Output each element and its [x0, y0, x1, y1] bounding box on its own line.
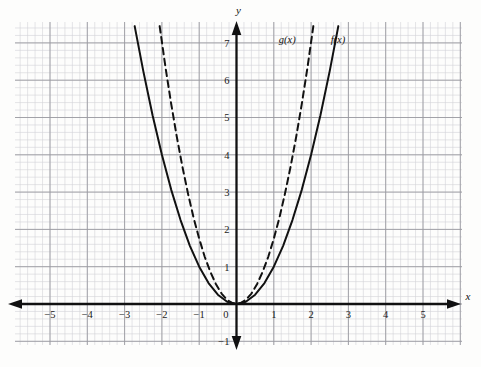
cartesian-plot: −5−4−3−2−1012345 −11234567 g(x)f(x) xy [0, 0, 481, 367]
x-tick-5: 5 [420, 309, 425, 320]
graph-canvas: −5−4−3−2−1012345 −11234567 g(x)f(x) xy [0, 0, 481, 367]
x-tick-1: 1 [271, 309, 276, 320]
y-tick--1: −1 [218, 336, 229, 347]
y-tick-6: 6 [224, 75, 229, 86]
g-curve-label: g(x) [279, 34, 296, 46]
x-tick--2: −2 [156, 309, 167, 320]
x-tick--1: −1 [194, 309, 205, 320]
minor-gridlines [15, 22, 462, 345]
x-tick--3: −3 [119, 309, 130, 320]
y-tick-1: 1 [224, 262, 229, 273]
y-tick-7: 7 [224, 38, 229, 49]
x-tick-0: 0 [223, 309, 228, 320]
x-axis-label: x [465, 290, 471, 302]
y-axis-label: y [235, 4, 241, 16]
y-tick-5: 5 [224, 112, 229, 123]
f-curve-label: f(x) [331, 34, 346, 46]
x-tick-2: 2 [308, 309, 313, 320]
y-tick-3: 3 [224, 187, 229, 198]
x-tick--5: −5 [44, 309, 55, 320]
x-tick-4: 4 [383, 309, 389, 320]
x-tick-3: 3 [346, 309, 351, 320]
x-tick--4: −4 [82, 309, 94, 320]
y-tick-4: 4 [224, 150, 230, 161]
axis-names: xy [235, 4, 471, 302]
x-tick-labels: −5−4−3−2−1012345 [44, 309, 425, 320]
y-tick-2: 2 [224, 224, 229, 235]
